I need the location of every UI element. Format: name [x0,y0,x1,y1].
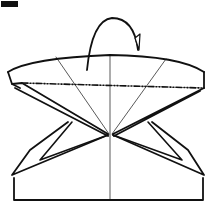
right-lower-flap-inner [113,122,182,160]
bottom-panel [14,178,203,200]
mountain-fold-line [22,83,202,88]
left-lower-flap-outer [12,122,108,175]
top-edge [8,55,204,72]
origami-diagram [0,0,205,216]
fold-back-arrow [87,18,138,70]
right-upper-flap [113,88,204,136]
left-top-side [8,72,20,88]
